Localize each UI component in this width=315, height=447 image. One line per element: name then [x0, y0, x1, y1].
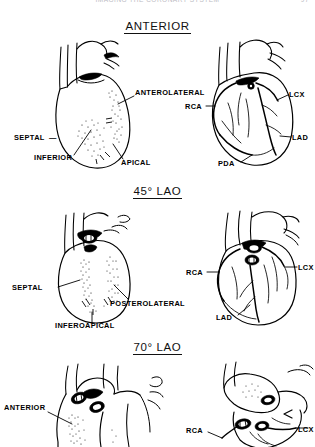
- label-lad: LAD: [292, 133, 309, 142]
- label-rca: RCA: [185, 102, 202, 111]
- lao70-lobe-stipple: [243, 384, 262, 398]
- anterior-right-heart: [206, 40, 293, 165]
- lao45-right-heart: [207, 211, 299, 325]
- panel-lao70: ANTERIOR: [0, 360, 315, 447]
- section-heading-anterior-label: ANTERIOR: [124, 20, 190, 34]
- segment-anterior-stipple: [69, 414, 117, 444]
- page-folio: 97: [301, 0, 309, 3]
- label-lcx: LCX: [289, 90, 305, 99]
- running-head-title: IMAGING THE CORONARY SYSTEM: [95, 0, 219, 3]
- label-lcx-lao45: LCX: [298, 263, 314, 272]
- section-heading-anterior: ANTERIOR: [0, 20, 315, 34]
- label-anterior-lao70: ANTERIOR: [4, 403, 46, 412]
- label-rca-lao70: RCA: [186, 426, 203, 435]
- lao70-right-heart: [208, 362, 313, 447]
- label-lcx-lao70: LCX: [298, 425, 314, 434]
- segment-anterolateral-stipple: [109, 90, 123, 142]
- section-heading-lao45-label: 45° LAO: [133, 185, 183, 199]
- panel-anterior-artwork: ANTEROLATERAL SEPTAL — INFERIOR APICAL: [0, 33, 315, 181]
- panel-lao45: SEPTAL POSTEROLATERAL INFEROAPICAL: [0, 205, 315, 337]
- panel-lao70-artwork: ANTERIOR: [0, 360, 315, 447]
- anterior-left-heart: [56, 41, 134, 168]
- label-anterolateral: ANTEROLATERAL: [135, 88, 205, 97]
- label-pda: PDA: [218, 159, 235, 168]
- segment-inferior-stipple: [78, 120, 105, 157]
- section-heading-lao45: 45° LAO: [0, 185, 315, 199]
- label-lad-lao45: LAD: [216, 313, 233, 322]
- section-heading-lao70-label: 70° LAO: [133, 341, 183, 355]
- running-head: IMAGING THE CORONARY SYSTEM 97: [0, 0, 315, 5]
- segment-septal-stipple: [81, 259, 97, 312]
- lao70-left-heart: [48, 364, 163, 447]
- label-rca-lao45: RCA: [186, 268, 203, 277]
- panel-lao45-artwork: SEPTAL POSTEROLATERAL INFEROAPICAL: [0, 205, 315, 337]
- label-septal-lao45: SEPTAL: [12, 283, 43, 292]
- label-posterolateral: POSTEROLATERAL: [110, 299, 185, 308]
- panel-anterior: ANTEROLATERAL SEPTAL — INFERIOR APICAL: [0, 33, 315, 181]
- label-apical: APICAL: [121, 158, 151, 167]
- label-inferoapical: INFEROAPICAL: [55, 321, 115, 330]
- section-heading-lao70: 70° LAO: [0, 341, 315, 355]
- label-inferior: INFERIOR: [34, 153, 72, 162]
- label-septal-dash: —: [49, 133, 57, 142]
- figure-page: IMAGING THE CORONARY SYSTEM 97 ANTERIOR: [0, 0, 315, 447]
- label-septal: SEPTAL: [14, 133, 45, 142]
